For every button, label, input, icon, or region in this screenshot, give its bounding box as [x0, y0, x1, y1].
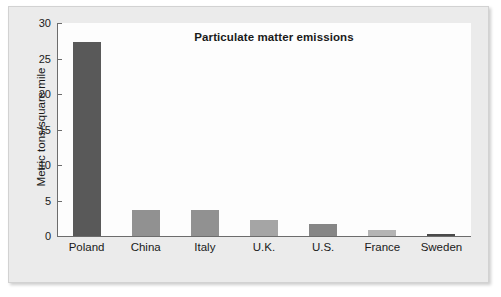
chart-title: Particulate matter emissions — [159, 31, 389, 43]
bar-italy[interactable] — [191, 210, 219, 236]
bar-sweden[interactable] — [427, 234, 455, 236]
bar-china[interactable] — [132, 210, 160, 236]
figure-card: Metric tons/square mile 051015202530 Pol… — [8, 6, 489, 283]
bar-us[interactable] — [309, 224, 337, 236]
bar-poland[interactable] — [73, 42, 101, 236]
bar-uk[interactable] — [250, 220, 278, 236]
bar-france[interactable] — [368, 230, 396, 236]
x-tick-label: Sweden — [401, 241, 481, 253]
